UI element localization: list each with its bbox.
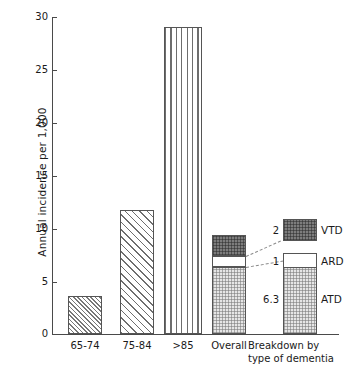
x-axis-line xyxy=(52,334,339,335)
legend-label-atd: ATD xyxy=(321,294,342,305)
bar-over-85 xyxy=(164,27,202,334)
y-tick-10 xyxy=(52,229,57,230)
legend-swatch-atd xyxy=(283,267,317,334)
bar-overall-segment-vtd xyxy=(212,235,246,256)
y-tick-label-15: 15 xyxy=(8,171,48,181)
legend-value-ard: 1 xyxy=(258,257,279,267)
legend-value-atd: 6.3 xyxy=(250,295,279,305)
legend-label-vtd: VTD xyxy=(321,225,343,236)
x-label-breakdown: Breakdown by type of dementia xyxy=(248,340,342,365)
y-tick-label-5: 5 xyxy=(8,277,48,287)
bar-overall-segment-atd xyxy=(212,267,246,334)
x-label-65-74: 65-74 xyxy=(58,340,112,353)
y-tick-label-10: 10 xyxy=(8,224,48,234)
leader-line-vtd xyxy=(246,241,281,257)
y-tick-30 xyxy=(52,17,57,18)
y-tick-5 xyxy=(52,282,57,283)
y-tick-label-20: 20 xyxy=(8,118,48,128)
bar-65-74 xyxy=(68,296,102,334)
y-tick-label-30: 30 xyxy=(8,12,48,22)
y-tick-20 xyxy=(52,123,57,124)
y-tick-label-0: 0 xyxy=(8,329,48,339)
y-tick-0 xyxy=(52,334,57,335)
legend-swatch-vtd xyxy=(283,219,317,241)
bar-75-84 xyxy=(120,210,154,334)
y-tick-25 xyxy=(52,70,57,71)
y-tick-15 xyxy=(52,176,57,177)
bar-overall-segment-ard xyxy=(212,256,246,267)
legend-label-ard: ARD xyxy=(321,256,344,267)
dementia-incidence-chart: Annual incidence per 1,000 30 25 20 15 1… xyxy=(0,0,345,377)
y-axis-title: Annual incidence per 1,000 xyxy=(36,62,48,302)
y-tick-label-25: 25 xyxy=(8,65,48,75)
legend-value-vtd: 2 xyxy=(258,226,279,236)
